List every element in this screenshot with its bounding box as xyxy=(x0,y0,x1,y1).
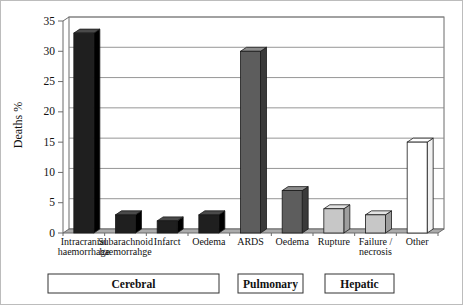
x-tick-label: Infarct xyxy=(154,236,181,247)
bar-rupture-6 xyxy=(324,205,350,233)
bar-subarachnoid-1 xyxy=(116,211,142,233)
bar-side-face xyxy=(427,138,433,233)
bar-oedema-5 xyxy=(282,187,308,233)
x-tick-label: Other xyxy=(406,236,429,247)
y-tick-label: 20 xyxy=(44,105,56,117)
y-tick-label: 10 xyxy=(44,166,56,178)
bar-chart: 05101520253035IntracranialhaemorrhageSub… xyxy=(1,1,463,305)
bar-intracranial-0 xyxy=(74,29,100,233)
x-tick-label: Failure /necrosis xyxy=(359,236,393,257)
bar-front-face xyxy=(324,209,344,233)
group-label-pulmonary: Pulmonary xyxy=(243,278,298,291)
bar-side-face xyxy=(261,47,267,233)
x-tick-label: Subarachnoidhaemorrahge xyxy=(98,236,153,257)
x-tick-label-line: necrosis xyxy=(359,246,392,257)
axis-corner-top xyxy=(63,17,69,21)
y-tick-label: 30 xyxy=(44,45,56,57)
y-tick-label: 0 xyxy=(49,227,55,239)
bar-front-face xyxy=(366,215,386,233)
x-tick-label: ARDS xyxy=(237,236,264,247)
bar-front-face xyxy=(116,215,136,233)
x-tick-label-line: Rupture xyxy=(318,236,351,247)
y-tick-label: 35 xyxy=(44,15,56,27)
bar-side-face xyxy=(302,187,308,233)
x-tick-label-line: Oedema xyxy=(276,236,310,247)
group-label-cerebral: Cerebral xyxy=(112,278,156,290)
bar-front-face xyxy=(407,142,427,233)
x-tick-label-line: ARDS xyxy=(237,236,264,247)
x-tick-label-line: Other xyxy=(406,236,429,247)
bar-side-face xyxy=(94,29,100,233)
bar-front-face xyxy=(199,215,219,233)
bar-chart-figure: Deaths % 05101520253035Intracranialhaemo… xyxy=(0,0,463,305)
x-tick-label: Oedema xyxy=(192,236,226,247)
bar-front-face xyxy=(241,51,261,233)
bar-front-face xyxy=(282,191,302,233)
bar-front-face xyxy=(157,221,177,233)
bar-ards-4 xyxy=(241,47,267,233)
group-label-hepatic: Hepatic xyxy=(340,278,378,291)
bar-infarct-2 xyxy=(157,217,183,233)
bar-oedema-3 xyxy=(199,211,225,233)
y-tick-label: 15 xyxy=(44,136,56,148)
bar-other-8 xyxy=(407,138,433,233)
bar-side-face xyxy=(344,205,350,233)
x-tick-label: Oedema xyxy=(276,236,310,247)
bar-failure-7 xyxy=(366,211,392,233)
x-tick-label-line: Oedema xyxy=(192,236,226,247)
y-tick-label: 5 xyxy=(49,196,55,208)
x-tick-label: Rupture xyxy=(318,236,351,247)
x-tick-label-line: Infarct xyxy=(154,236,181,247)
bar-front-face xyxy=(74,33,94,233)
y-tick-label: 25 xyxy=(44,75,56,87)
x-tick-label-line: haemorrahge xyxy=(99,246,152,257)
